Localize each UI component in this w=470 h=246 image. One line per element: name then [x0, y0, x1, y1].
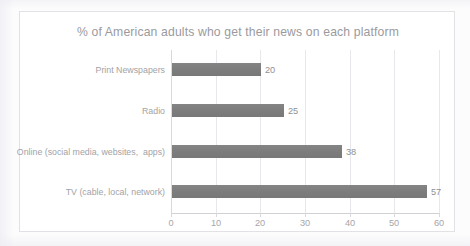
- x-tick-30: [305, 213, 306, 217]
- chart-frame: % of American adults who get their news …: [19, 11, 455, 232]
- bar: [172, 104, 284, 117]
- bar: [172, 185, 427, 198]
- bar: [172, 145, 342, 158]
- x-tick-40: [350, 213, 351, 217]
- x-tick-label-20: 20: [245, 218, 275, 228]
- chart-title: % of American adults who get their news …: [20, 25, 456, 39]
- bar-value-label: 38: [346, 147, 356, 157]
- category-label: Online (social media, websites, apps): [5, 147, 165, 157]
- bar-value-label: 57: [431, 187, 441, 197]
- x-tick-50: [394, 213, 395, 217]
- bar-value-label: 25: [288, 106, 298, 116]
- category-label: Print Newspapers: [5, 65, 165, 75]
- bar-value-label: 20: [265, 65, 275, 75]
- x-tick-10: [216, 213, 217, 217]
- plot-area: 0 10 20 30 40 50 60 20253857 Print Newsp…: [171, 50, 439, 213]
- category-label: Radio: [5, 106, 165, 116]
- x-tick-label-30: 30: [290, 218, 320, 228]
- x-tick-label-50: 50: [379, 218, 409, 228]
- x-tick-label-40: 40: [335, 218, 365, 228]
- x-tick-60: [439, 213, 440, 217]
- x-tick-label-10: 10: [201, 218, 231, 228]
- bar: [172, 63, 261, 76]
- x-tick-20: [260, 213, 261, 217]
- x-tick-0: [171, 213, 172, 217]
- chart-screenshot: % of American adults who get their news …: [0, 0, 470, 246]
- category-label: TV (cable, local, network): [5, 187, 165, 197]
- x-tick-label-60: 60: [424, 218, 454, 228]
- x-tick-label-0: 0: [156, 218, 186, 228]
